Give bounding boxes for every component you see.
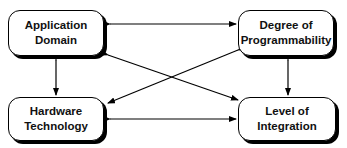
node-application-domain: Application Domain — [8, 10, 104, 56]
arrow-programmability-hardware — [108, 50, 238, 103]
node-label-line1: Application — [25, 18, 88, 33]
node-label-line2: Domain — [25, 33, 88, 48]
node-label-line1: Hardware — [24, 104, 88, 119]
node-hardware-technology: Hardware Technology — [8, 97, 104, 141]
node-label-line1: Degree of — [241, 18, 332, 33]
arrow-application-integration — [108, 55, 238, 100]
node-label-line2: Technology — [24, 119, 88, 134]
node-label-line2: Integration — [257, 119, 316, 134]
node-degree-of-programmability: Degree of Programmability — [238, 10, 334, 56]
node-label-line2: Programmability — [241, 33, 332, 48]
node-level-of-integration: Level of Integration — [238, 97, 336, 141]
node-label-line1: Level of — [257, 104, 316, 119]
